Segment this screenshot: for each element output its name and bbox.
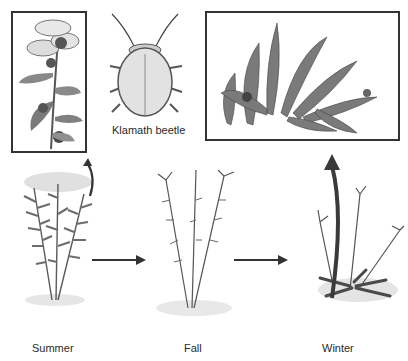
rosette-illustration	[207, 13, 398, 139]
beetle-label: Klamath beetle	[112, 124, 185, 136]
arrow-fall-to-winter	[234, 254, 288, 266]
fall-plant-illustration	[150, 170, 246, 320]
stage-label-fall: Fall	[184, 342, 202, 354]
arrow-summer-to-flower-inset	[80, 158, 100, 198]
beetle-illustration	[104, 8, 188, 126]
arrow-summer-to-fall	[92, 254, 146, 266]
flower-inset	[11, 11, 87, 153]
stage-label-summer: Summer	[32, 342, 74, 354]
arrow-winter-to-rosette-inset	[318, 152, 348, 302]
winter-plant-illustration	[300, 150, 408, 310]
flowering-stem-illustration	[13, 13, 85, 151]
rosette-inset	[205, 11, 400, 141]
stage-label-winter: Winter	[322, 342, 354, 354]
